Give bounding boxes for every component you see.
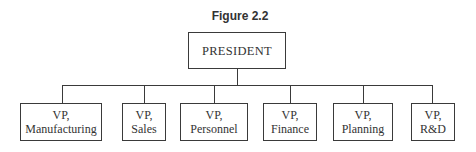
vp-title: VP, bbox=[52, 108, 69, 122]
vp-manufacturing-box: VP, Manufacturing bbox=[20, 103, 102, 141]
vp-title: VP, bbox=[354, 108, 371, 122]
vp-department: Manufacturing bbox=[25, 122, 96, 136]
president-connector bbox=[237, 69, 238, 85]
president-box: PRESIDENT bbox=[188, 32, 286, 69]
vp-title: VP, bbox=[281, 108, 298, 122]
figure-title: Figure 2.2 bbox=[0, 9, 476, 23]
vp-department: Finance bbox=[271, 122, 309, 136]
vp-finance-box: VP, Finance bbox=[263, 103, 317, 141]
connector-rnd bbox=[432, 85, 433, 103]
vp-sales-box: VP, Sales bbox=[122, 103, 166, 141]
vp-personnel-box: VP, Personnel bbox=[180, 103, 248, 141]
vp-planning-box: VP, Planning bbox=[333, 103, 393, 141]
vp-title: VP, bbox=[424, 108, 441, 122]
vp-title: VP, bbox=[135, 108, 152, 122]
connector-sales bbox=[144, 85, 145, 103]
president-label: PRESIDENT bbox=[202, 44, 272, 58]
connector-manufacturing bbox=[62, 85, 63, 103]
vp-rnd-box: VP, R&D bbox=[411, 103, 455, 141]
connector-personnel bbox=[214, 85, 215, 103]
horizontal-bus-line bbox=[62, 85, 433, 86]
connector-finance bbox=[290, 85, 291, 103]
vp-department: Sales bbox=[131, 122, 156, 136]
vp-title: VP, bbox=[205, 108, 222, 122]
vp-department: Personnel bbox=[190, 122, 237, 136]
vp-department: Planning bbox=[342, 122, 385, 136]
connector-planning bbox=[363, 85, 364, 103]
vp-department: R&D bbox=[420, 122, 446, 136]
